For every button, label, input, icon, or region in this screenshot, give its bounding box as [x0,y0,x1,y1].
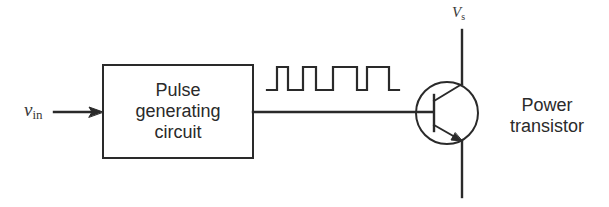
block-label: Pulse generating circuit [103,65,253,158]
diagram-canvas: vin Pulse generating circuit Vs Power tr… [0,0,609,207]
supply-symbol: V [452,4,461,20]
pulse-train-icon [267,67,399,90]
emitter-arrow-icon [451,133,462,141]
supply-subscript: s [461,11,465,22]
block-label-line-3: circuit [154,122,201,143]
block-label-line-1: Pulse [155,80,200,101]
transistor-label-line-2: transistor [492,116,602,137]
input-subscript: in [32,107,42,122]
block-label-line-2: generating [135,101,220,122]
input-voltage-label: vin [24,99,43,123]
supply-voltage-label: Vs [452,4,465,22]
collector-lead [434,84,462,101]
transistor-label-line-1: Power [492,95,602,116]
transistor-label: Power transistor [492,95,602,137]
